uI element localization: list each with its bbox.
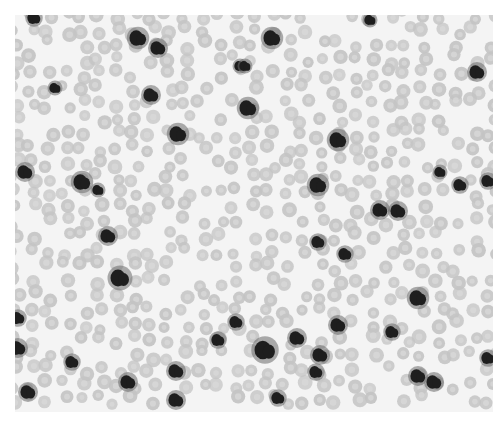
cell-field (15, 15, 493, 412)
blood-smear-micrograph (15, 15, 493, 412)
